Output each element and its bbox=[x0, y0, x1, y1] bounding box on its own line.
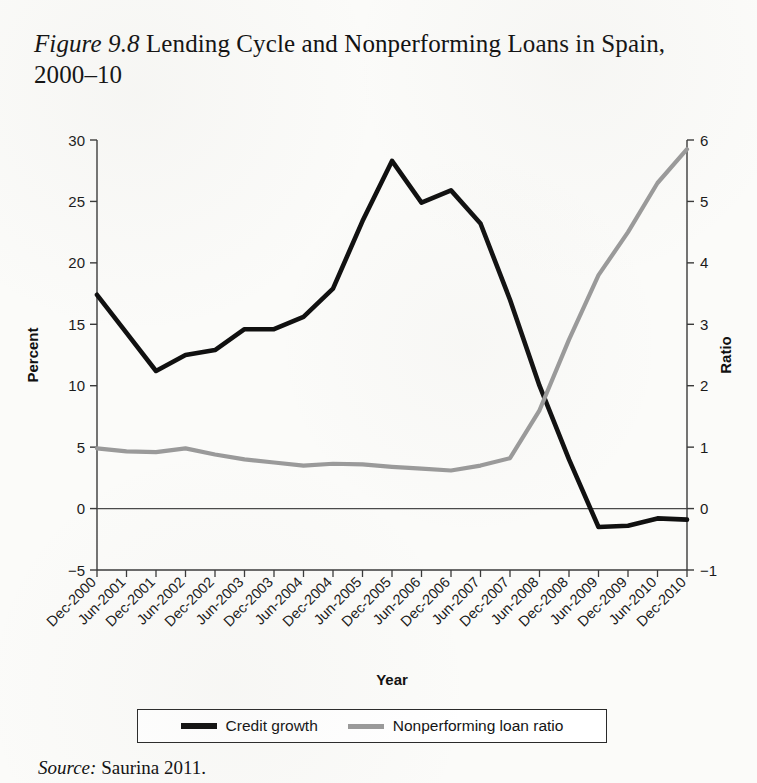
y-axis-tick-label: 30 bbox=[68, 132, 85, 149]
legend-item-credit-growth: Credit growth bbox=[181, 717, 318, 735]
y-axis-tick-label: 20 bbox=[68, 254, 85, 271]
legend-line-npl-ratio bbox=[348, 724, 384, 729]
y2-axis-tick-label: 1 bbox=[700, 439, 708, 456]
y2-axis-tick-label: 0 bbox=[700, 500, 708, 517]
chart-area: −5051015202530−10123456Dec-2000Jun-2001D… bbox=[0, 110, 757, 710]
line-chart: −5051015202530−10123456Dec-2000Jun-2001D… bbox=[0, 110, 757, 710]
source-note: Source: Saurina 2011. bbox=[38, 757, 206, 779]
legend-item-npl-ratio: Nonperforming loan ratio bbox=[348, 717, 564, 735]
y-axis-tick-label: 5 bbox=[77, 439, 85, 456]
source-text: Saurina 2011. bbox=[96, 757, 206, 778]
y-axis-tick-label: 25 bbox=[68, 193, 85, 210]
x-axis-title: Year bbox=[376, 671, 408, 688]
y2-axis-tick-label: 2 bbox=[700, 377, 708, 394]
y2-axis-title: Ratio bbox=[717, 336, 734, 374]
y-axis-tick-label: 0 bbox=[77, 500, 85, 517]
series-line-nonperforming-loan-ratio bbox=[97, 149, 687, 470]
y-axis-tick-label: 10 bbox=[68, 377, 85, 394]
figure-page: Figure 9.8 Lending Cycle and Nonperformi… bbox=[0, 0, 757, 783]
y2-axis-tick-label: 4 bbox=[700, 254, 708, 271]
y2-axis-tick-label: 6 bbox=[700, 132, 708, 149]
figure-number: Figure 9.8 bbox=[34, 30, 140, 57]
legend-label-npl-ratio: Nonperforming loan ratio bbox=[393, 717, 564, 735]
legend-label-credit-growth: Credit growth bbox=[226, 717, 318, 735]
figure-title: Figure 9.8 Lending Cycle and Nonperformi… bbox=[34, 28, 694, 90]
legend-line-credit-growth bbox=[181, 723, 217, 729]
source-label: Source: bbox=[38, 757, 96, 778]
chart-legend: Credit growth Nonperforming loan ratio bbox=[137, 709, 607, 743]
y-axis-title: Percent bbox=[24, 327, 41, 382]
y-axis-tick-label: −5 bbox=[68, 562, 85, 579]
y-axis-tick-label: 15 bbox=[68, 316, 85, 333]
series-line-credit-growth bbox=[97, 161, 687, 527]
y2-axis-tick-label: 5 bbox=[700, 193, 708, 210]
y2-axis-tick-label: 3 bbox=[700, 316, 708, 333]
y2-axis-tick-label: −1 bbox=[700, 562, 717, 579]
